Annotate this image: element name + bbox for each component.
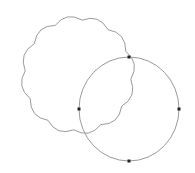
resize-handle-right[interactable] [178,108,181,111]
drawing-canvas[interactable] [0,0,195,173]
resize-handle-left[interactable] [78,108,81,111]
resize-handle-top[interactable] [128,56,131,59]
selected-ellipse-shape[interactable] [79,57,179,161]
selection-handles[interactable] [78,56,181,163]
resize-handle-bottom[interactable] [128,160,131,163]
cloud-shape[interactable] [22,17,135,134]
